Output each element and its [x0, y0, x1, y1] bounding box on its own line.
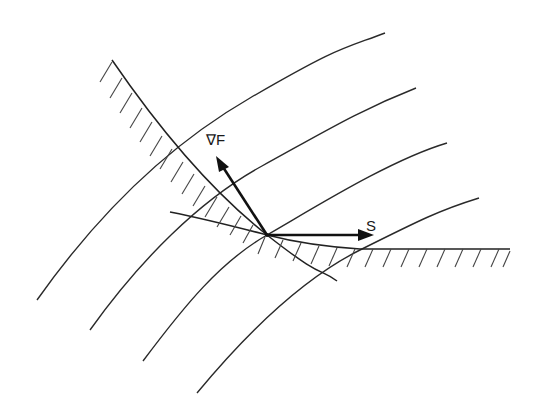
gradient-arrowhead-icon	[216, 156, 229, 172]
constraint-vertex-point	[265, 233, 269, 237]
contour-line	[37, 33, 385, 300]
contour-line	[90, 88, 416, 330]
contour-line	[143, 143, 447, 361]
search-direction-label: S	[366, 218, 376, 233]
constraint-boundary-b	[170, 212, 510, 249]
constraint-a-hatching	[100, 62, 253, 243]
constraint-boundaries	[112, 60, 510, 281]
objective-contours	[37, 33, 479, 393]
constrained-optimization-diagram	[0, 0, 533, 418]
gradient-label: ∇F	[206, 132, 225, 147]
